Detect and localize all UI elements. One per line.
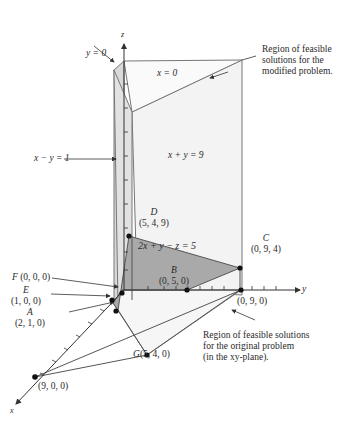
plane-label-constraint: 2x + y − z = 5 bbox=[138, 240, 196, 251]
point-A bbox=[113, 308, 118, 313]
point-F bbox=[119, 290, 124, 295]
label-G: G(5, 4, 0) bbox=[133, 349, 170, 360]
label-D: D (5, 4, 9) bbox=[134, 207, 174, 229]
x-axis-label: x bbox=[10, 405, 14, 416]
annotation-modified-region: Region of feasible solutions for the mod… bbox=[262, 44, 333, 77]
plane-label-x0: x = 0 bbox=[157, 68, 177, 79]
point-E bbox=[109, 297, 114, 302]
point-0-9-0 bbox=[238, 287, 243, 292]
point-B bbox=[184, 287, 189, 292]
point-C bbox=[237, 265, 242, 270]
plane-label-x-plus-y-9: x + y = 9 bbox=[168, 150, 204, 161]
annotation-original-region: Region of feasible solutions for the ori… bbox=[203, 330, 309, 363]
point-D bbox=[126, 233, 131, 238]
label-E: E (1, 0, 0) bbox=[4, 285, 48, 307]
y-axis-label: y bbox=[302, 284, 306, 295]
point-9-0-0 bbox=[32, 374, 38, 380]
label-C: C (0, 9, 4) bbox=[244, 233, 288, 255]
plane-label-x-minus-y-1: x − y = 1 bbox=[34, 153, 70, 164]
z-axis-label: z bbox=[121, 29, 124, 40]
plane-label-y0: y = 0 bbox=[86, 48, 106, 59]
label-F: F (0, 0, 0) bbox=[12, 272, 50, 283]
label-0-9-0: (0, 9, 0) bbox=[237, 296, 267, 307]
label-B: B (0, 5, 0) bbox=[152, 265, 196, 287]
label-A: A (2, 1, 0) bbox=[8, 307, 52, 329]
label-9-0-0: (9, 0, 0) bbox=[38, 381, 68, 392]
